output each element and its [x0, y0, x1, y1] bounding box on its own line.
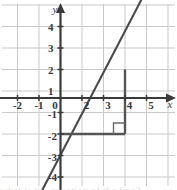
coordinate-graph-figure: -2 -1 2 3 4 5 0 4 3 2 1 -1 -2 -3 -4 y x …: [0, 0, 177, 190]
y-tick-label-1: 1: [48, 85, 54, 97]
y-tick-label-3: 3: [48, 42, 54, 54]
x-tick-label-2: 2: [84, 99, 90, 111]
y-tick-label--2: -2: [48, 130, 58, 142]
x-tick-label-3: 3: [105, 99, 111, 111]
x-tick-label-5: 5: [148, 99, 154, 111]
x-tick-label--1: -1: [34, 99, 43, 111]
y-tick-label-2: 2: [48, 64, 54, 76]
x-axis-name: x: [167, 98, 173, 110]
x-tick-label-4: 4: [127, 99, 133, 111]
y-tick-label-4: 4: [48, 21, 54, 33]
bottom-caption-cutoff: what is the equation of the line?: [0, 184, 177, 190]
y-tick-label--4: -4: [48, 171, 58, 183]
y-axis-name: y: [52, 3, 58, 15]
x-tick-label--2: -2: [13, 99, 23, 111]
y-tick-label--3: -3: [48, 151, 58, 163]
coordinate-plane: -2 -1 2 3 4 5 0 4 3 2 1 -1 -2 -3 -4 y x: [0, 0, 177, 190]
y-tick-label--1: -1: [48, 108, 57, 120]
plot-background: [0, 0, 177, 190]
